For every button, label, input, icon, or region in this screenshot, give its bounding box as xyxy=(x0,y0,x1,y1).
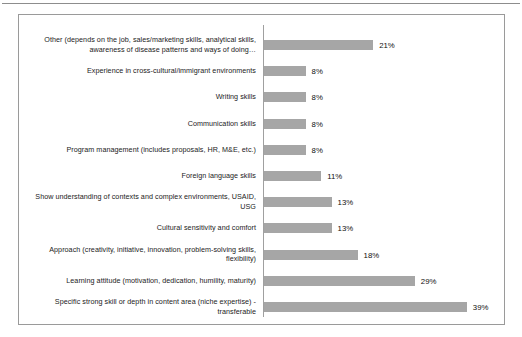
chart-frame: Other (depends on the job, sales/marketi… xyxy=(18,14,505,325)
bar-value-label: 18% xyxy=(364,250,380,259)
bar-value-label: 8% xyxy=(312,145,323,154)
bar xyxy=(264,171,321,181)
category-label: Communication skills xyxy=(20,119,256,129)
bar-value-label: 11% xyxy=(327,172,342,181)
bar xyxy=(264,197,332,207)
bar xyxy=(264,92,306,102)
bar xyxy=(264,250,358,260)
category-label: Experience in cross-cultural/immigrant e… xyxy=(20,66,256,76)
bar xyxy=(264,119,306,129)
category-label: Show understanding of contexts and compl… xyxy=(20,193,256,212)
bar xyxy=(264,66,306,76)
bar-chart-plot-area: Other (depends on the job, sales/marketi… xyxy=(19,15,504,324)
bar-value-label: 8% xyxy=(312,67,323,76)
bar xyxy=(264,276,415,286)
bar-value-label: 21% xyxy=(379,41,395,50)
bar-value-label: 39% xyxy=(473,303,489,312)
bar-value-label: 8% xyxy=(312,119,323,128)
category-label: Foreign language skills xyxy=(20,171,256,181)
bar-value-label: 29% xyxy=(421,276,437,285)
bar xyxy=(264,145,306,155)
category-label: Other (depends on the job, sales/marketi… xyxy=(20,35,256,54)
bar-value-label: 8% xyxy=(312,93,323,102)
category-label: Program management (includes proposals, … xyxy=(20,145,256,155)
category-label: Learning attitude (motivation, dedicatio… xyxy=(20,276,256,286)
top-horizontal-rule xyxy=(2,3,520,4)
category-label: Writing skills xyxy=(20,93,256,103)
category-label: Specific strong skill or depth in conten… xyxy=(20,297,256,316)
bar-value-label: 13% xyxy=(338,198,354,207)
bar xyxy=(264,40,373,50)
bar-value-label: 13% xyxy=(338,224,354,233)
bar xyxy=(264,223,332,233)
category-label: Cultural sensitivity and comfort xyxy=(20,224,256,234)
bar xyxy=(264,302,467,312)
category-label: Approach (creativity, initiative, innova… xyxy=(20,245,256,264)
